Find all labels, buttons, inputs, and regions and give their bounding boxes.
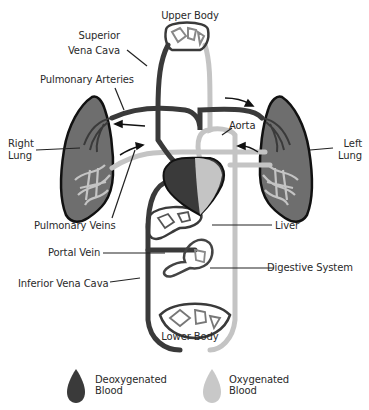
label-inferior-vena-cava: Inferior Vena Cava bbox=[18, 278, 108, 289]
label-superior-vena-cava-2: Vena Cava bbox=[40, 45, 120, 56]
light-blood-drop-icon bbox=[203, 369, 221, 403]
label-right-lung-2: Lung bbox=[8, 150, 32, 161]
label-digestive-system: Digestive System bbox=[267, 262, 353, 273]
label-left-lung-1: Left bbox=[320, 138, 362, 149]
legend-deoxygenated-line1: Deoxygenated bbox=[95, 374, 167, 385]
upper-body-capillaries bbox=[165, 23, 208, 51]
legend-oxygenated-line2: Blood bbox=[229, 385, 257, 396]
lung-arteries bbox=[84, 118, 290, 152]
legend-deoxygenated-line2: Blood bbox=[95, 385, 123, 396]
label-right-lung-1: Right bbox=[8, 138, 34, 149]
label-liver: Liver bbox=[275, 220, 299, 231]
label-lower-body: Lower Body bbox=[150, 331, 230, 342]
label-superior-vena-cava-1: Superior bbox=[60, 30, 120, 41]
label-pulmonary-arteries: Pulmonary Arteries bbox=[40, 74, 134, 85]
label-portal-vein: Portal Vein bbox=[48, 247, 100, 258]
circulatory-diagram bbox=[0, 0, 369, 410]
dark-blood-drop-icon bbox=[67, 369, 85, 403]
digestive-system bbox=[164, 240, 212, 277]
label-pulmonary-veins: Pulmonary Veins bbox=[34, 220, 116, 231]
label-upper-body: Upper Body bbox=[150, 10, 230, 21]
legend-oxygenated-line1: Oxygenated bbox=[229, 374, 289, 385]
label-left-lung-2: Lung bbox=[320, 150, 362, 161]
label-aorta: Aorta bbox=[229, 120, 255, 131]
